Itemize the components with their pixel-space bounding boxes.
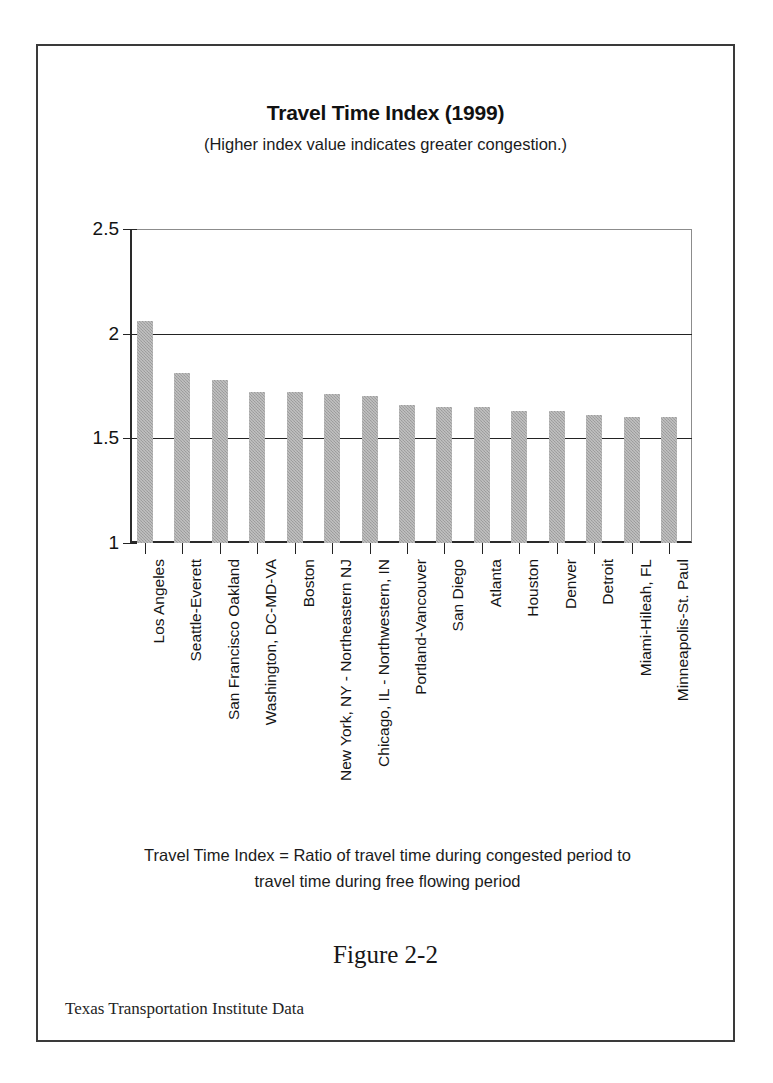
y-axis-tick-label: 1	[108, 533, 119, 552]
x-axis-tick	[594, 543, 595, 554]
bar	[324, 394, 340, 543]
bar	[249, 392, 265, 543]
bar	[287, 392, 303, 543]
x-axis-tick	[632, 543, 633, 554]
x-axis-tick-label: San Diego	[450, 559, 466, 631]
bar-series	[130, 229, 692, 543]
x-axis-tick	[295, 543, 296, 554]
y-axis-tick-label: 2	[108, 324, 119, 343]
x-axis-tick	[145, 543, 146, 554]
bar	[549, 411, 565, 543]
y-axis-tick	[123, 543, 137, 544]
x-axis-tick-label: Atlanta	[488, 559, 504, 607]
y-axis-tick-label: 2.5	[93, 219, 119, 238]
source-note: Texas Transportation Institute Data	[65, 999, 304, 1019]
bar	[362, 396, 378, 543]
bar	[174, 373, 190, 543]
x-axis-tick	[444, 543, 445, 554]
bar	[586, 415, 602, 543]
bar	[212, 380, 228, 543]
x-axis-tick	[220, 543, 221, 554]
bar	[624, 417, 640, 543]
x-axis-tick	[370, 543, 371, 554]
bar	[436, 407, 452, 543]
chart-subtitle: (Higher index value indicates greater co…	[38, 135, 733, 154]
x-axis-tick	[257, 543, 258, 554]
bar	[661, 417, 677, 543]
x-axis-tick-label: Denver	[563, 559, 579, 609]
x-axis-tick-label: Minneapolis-St. Paul	[675, 559, 691, 701]
x-axis-tick	[407, 543, 408, 554]
x-axis-tick-label: Houston	[525, 559, 541, 617]
chart-title: Travel Time Index (1999)	[38, 101, 733, 125]
x-axis-tick	[557, 543, 558, 554]
x-axis-tick-label: Seattle-Everett	[188, 559, 204, 662]
figure-caption: Figure 2-2	[38, 941, 733, 969]
x-axis-tick-label: Boston	[301, 559, 317, 607]
x-axis-tick-label: Chicago, IL - Northwestern, IN	[376, 559, 392, 767]
plot-area: 11.522.5 Los AngelesSeattle-EverettSan F…	[130, 229, 692, 543]
bar	[474, 407, 490, 543]
x-axis-tick-label: Los Angeles	[151, 559, 167, 643]
footnote-line-2: travel time during free flowing period	[76, 869, 699, 895]
x-axis-tick	[182, 543, 183, 554]
x-axis-tick	[669, 543, 670, 554]
x-axis-tick-label: New York, NY - Northeastern NJ	[338, 559, 354, 781]
bar	[511, 411, 527, 543]
footnote-line-1: Travel Time Index = Ratio of travel time…	[76, 843, 699, 869]
figure-frame: Travel Time Index (1999) (Higher index v…	[36, 44, 735, 1042]
x-axis-tick	[332, 543, 333, 554]
bar	[399, 405, 415, 543]
x-axis-tick-label: Washington, DC-MD-VA	[263, 559, 279, 725]
x-axis-tick-label: Portland-Vancouver	[413, 559, 429, 695]
x-axis-tick-label: Miami-Hileah, FL	[638, 559, 654, 676]
x-axis-tick-label: San Francisco Oakland	[226, 559, 242, 720]
bar	[137, 321, 153, 543]
x-axis-tick-label: Detroit	[600, 559, 616, 605]
x-axis-tick	[519, 543, 520, 554]
y-axis-tick-label: 1.5	[93, 428, 119, 447]
footnote: Travel Time Index = Ratio of travel time…	[76, 843, 699, 894]
x-axis-tick	[482, 543, 483, 554]
